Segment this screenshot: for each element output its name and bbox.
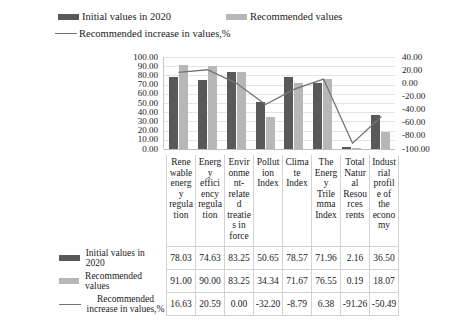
category-label-line: regula bbox=[197, 199, 223, 210]
table-cell-value: 20.59 bbox=[196, 293, 225, 316]
chart-area: 100.0090.0080.0070.0060.0050.0040.0030.0… bbox=[0, 50, 456, 155]
table-cell-value: 50.65 bbox=[254, 247, 283, 270]
category-header-cell: Renewableenergyregulation bbox=[167, 155, 196, 247]
table-cell-value: -8.79 bbox=[283, 293, 312, 316]
category-label-line: econo bbox=[371, 210, 397, 221]
right-axis-tick: -20.00 bbox=[402, 92, 425, 101]
line-series-path bbox=[179, 70, 382, 144]
left-axis-tick: 60.00 bbox=[138, 89, 158, 98]
table-cell-value: 18.07 bbox=[370, 270, 399, 293]
row-header-label: Recommended increase in values,% bbox=[86, 294, 165, 315]
line-swatch-icon bbox=[55, 33, 77, 34]
category-label-line: the bbox=[371, 199, 397, 210]
bar-swatch-light-icon bbox=[226, 14, 247, 20]
gridline bbox=[164, 149, 395, 150]
right-axis-tick: 20.00 bbox=[402, 66, 422, 75]
row-header-recommended-values: Recommended values bbox=[57, 270, 167, 293]
right-axis-tick: -60.00 bbox=[402, 118, 425, 127]
left-axis-tick: 10.00 bbox=[138, 135, 158, 144]
category-label-line: force bbox=[226, 231, 252, 242]
table-row-categories: RenewableenergyregulationEnergyefficienc… bbox=[57, 155, 399, 247]
legend-row-1: Initial values in 2020 Recommended value… bbox=[0, 8, 456, 25]
legend-label: Recommended increase in values,% bbox=[79, 28, 231, 39]
table-cell-value: -32.20 bbox=[254, 293, 283, 316]
bar-swatch-dark-icon bbox=[58, 14, 79, 20]
legend-item-initial-values[interactable]: Initial values in 2020 bbox=[58, 11, 171, 22]
category-label-line: Indust bbox=[371, 157, 397, 168]
category-label-line: Energ bbox=[313, 168, 339, 179]
table-cell-value: -50.49 bbox=[370, 293, 399, 316]
category-label-line: Resou bbox=[342, 189, 368, 200]
category-label-line: s in bbox=[226, 220, 252, 231]
table-cell-value: 83.25 bbox=[225, 247, 254, 270]
table-cell-value: 2.16 bbox=[341, 247, 370, 270]
category-label-line: ency bbox=[197, 189, 223, 200]
category-label-line: tion bbox=[197, 210, 223, 221]
category-label-line: The bbox=[313, 157, 339, 168]
category-header-cell: Environment-relatedtreaties inforce bbox=[225, 155, 254, 247]
table-row: Initial values in 2020 78.0374.6383.2550… bbox=[57, 247, 399, 270]
category-label-line: effici bbox=[197, 178, 223, 189]
plot-area bbox=[163, 57, 395, 149]
table-cell-value: 91.00 bbox=[167, 270, 196, 293]
line-swatch-icon bbox=[59, 304, 81, 305]
category-header-cell: PollutionIndex bbox=[254, 155, 283, 247]
chart-page: Initial values in 2020 Recommended value… bbox=[0, 0, 456, 320]
right-axis-tick: -80.00 bbox=[402, 131, 425, 140]
category-label-line: Total bbox=[342, 157, 368, 168]
chart-legend: Initial values in 2020 Recommended value… bbox=[0, 8, 456, 42]
category-header-cell: Energyefficiencyregulation bbox=[196, 155, 225, 247]
left-value-axis: 100.0090.0080.0070.0060.0050.0040.0030.0… bbox=[118, 50, 160, 148]
row-header-label: Recommended values bbox=[85, 271, 165, 292]
category-label-line: y bbox=[197, 168, 223, 179]
category-label-line: Pollut bbox=[255, 157, 281, 168]
category-label-line: e of bbox=[371, 189, 397, 200]
category-label-line: nt- bbox=[226, 178, 252, 189]
category-label-line: d bbox=[226, 199, 252, 210]
right-axis-tick: 0.00 bbox=[402, 79, 418, 88]
category-header-cell: Industrialprofile oftheeconomy bbox=[370, 155, 399, 247]
category-label-line: my bbox=[371, 220, 397, 231]
category-label-line: Rene bbox=[168, 157, 194, 168]
category-label-line: Energ bbox=[197, 157, 223, 168]
category-label-line: Clima bbox=[284, 157, 310, 168]
table-row: Recommended increase in values,% 16.6320… bbox=[57, 293, 399, 316]
category-label-line: ion bbox=[255, 168, 281, 179]
category-label-line: te bbox=[284, 168, 310, 179]
right-axis-tick: 40.00 bbox=[402, 53, 422, 62]
table-cell-value: 34.34 bbox=[254, 270, 283, 293]
table-cell-value: 16.63 bbox=[167, 293, 196, 316]
category-header-cell: ClimateIndex bbox=[283, 155, 312, 247]
right-axis-tick: -100.00 bbox=[402, 145, 430, 154]
category-label-line: y bbox=[168, 189, 194, 200]
category-label-line: tion bbox=[168, 210, 194, 221]
category-label-line: rces bbox=[342, 199, 368, 210]
legend-item-recommended-values[interactable]: Recommended values bbox=[226, 11, 342, 22]
line-series-overlay bbox=[164, 57, 396, 149]
table-cell-value: 6.38 bbox=[312, 293, 341, 316]
data-table: RenewableenergyregulationEnergyefficienc… bbox=[57, 155, 399, 316]
right-axis-tick: -40.00 bbox=[402, 105, 425, 114]
category-label-line: relate bbox=[226, 189, 252, 200]
legend-item-recommended-increase[interactable]: Recommended increase in values,% bbox=[55, 28, 231, 39]
category-row-spacer bbox=[57, 155, 167, 247]
category-label-line: Envir bbox=[226, 157, 252, 168]
table-cell-value: 71.96 bbox=[312, 247, 341, 270]
category-label-line: mma bbox=[313, 199, 339, 210]
row-header-label: Initial values in 2020 bbox=[86, 248, 165, 269]
category-label-line: y bbox=[313, 178, 339, 189]
legend-label: Recommended values bbox=[250, 11, 342, 22]
category-label-line: energ bbox=[168, 178, 194, 189]
left-axis-tick: 0.00 bbox=[142, 145, 158, 154]
table-cell-value: 74.63 bbox=[196, 247, 225, 270]
legend-row-2: Recommended increase in values,% bbox=[0, 25, 456, 42]
row-header-initial-values: Initial values in 2020 bbox=[57, 247, 167, 270]
table-cell-value: 78.03 bbox=[167, 247, 196, 270]
bar-swatch-light-icon bbox=[59, 278, 79, 284]
category-label-line: rents bbox=[342, 210, 368, 221]
category-label-line: Index bbox=[313, 210, 339, 221]
table-cell-value: 83.25 bbox=[225, 270, 254, 293]
legend-label: Initial values in 2020 bbox=[82, 11, 171, 22]
table-cell-value: 0.19 bbox=[341, 270, 370, 293]
table-cell-value: 76.55 bbox=[312, 270, 341, 293]
